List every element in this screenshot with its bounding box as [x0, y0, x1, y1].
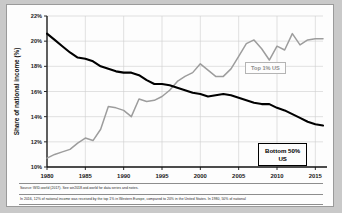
y-axis-label: Share of national income (%)	[13, 48, 21, 136]
annotation-top-1pct-us: Top 1% US	[245, 62, 286, 74]
chart-plot-area: 10%12%14%16%18%20%22%1980198519901995200…	[7, 5, 335, 208]
caption-note: In 2016, 12% of national income was rece…	[20, 197, 246, 201]
x-tick-label: 1995	[155, 173, 169, 179]
y-tick-label: 14%	[31, 114, 42, 120]
series-line-bottom-50-us	[47, 34, 323, 126]
y-tick-label: 22%	[31, 13, 42, 19]
footer-divider-mid	[19, 194, 323, 195]
y-tick-label: 18%	[31, 63, 42, 69]
annotation-bottom-50pct-us: Bottom 50% US	[258, 143, 307, 166]
y-tick-label: 12%	[31, 139, 42, 145]
footer-divider-top	[19, 183, 323, 184]
y-tick-label: 10%	[31, 164, 42, 170]
y-tick-label: 16%	[31, 89, 42, 95]
x-tick-label: 1980	[40, 173, 54, 179]
series-line-top-1-us	[47, 34, 323, 159]
line-chart-svg: 10%12%14%16%18%20%22%1980198519901995200…	[7, 5, 335, 208]
x-tick-label: 1985	[79, 173, 93, 179]
source-note: Source: WID.world (2017). See wir2018.wi…	[20, 186, 138, 190]
x-tick-label: 2000	[194, 173, 208, 179]
footer-divider-bottom	[19, 204, 323, 205]
x-tick-label: 2015	[309, 173, 323, 179]
x-tick-label: 2005	[232, 173, 246, 179]
y-tick-label: 20%	[31, 38, 42, 44]
x-tick-label: 1990	[117, 173, 131, 179]
chart-figure: 10%12%14%16%18%20%22%1980198519901995200…	[6, 4, 334, 207]
x-tick-label: 2010	[270, 173, 284, 179]
